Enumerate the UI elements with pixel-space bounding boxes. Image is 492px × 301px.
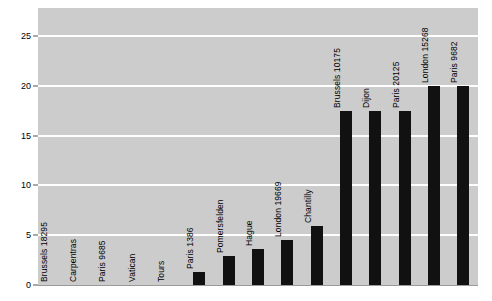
category-label: Carpentras (68, 239, 77, 282)
y-axis: 0510152025 (0, 0, 38, 301)
bar[interactable] (457, 86, 469, 285)
bar[interactable] (369, 111, 381, 285)
bar[interactable] (193, 272, 205, 285)
category-label: Brussels 10175 (332, 48, 341, 108)
y-tick-label-0: 0 (26, 281, 31, 290)
bar[interactable] (428, 86, 440, 285)
y-tick-mark-15 (33, 135, 38, 136)
category-slot[interactable]: Pomersfelden (214, 8, 243, 285)
category-label: Paris 1386 (186, 227, 195, 269)
category-label: Vatican (127, 254, 136, 282)
category-slot[interactable]: Paris 9685 (97, 8, 126, 285)
category-slot[interactable]: Vatican (126, 8, 155, 285)
bar[interactable] (399, 111, 411, 285)
category-label: Paris 20125 (391, 61, 400, 107)
category-label: Chantilly (303, 190, 312, 224)
bar[interactable] (252, 249, 264, 285)
category-slot[interactable]: Carpentras (67, 8, 96, 285)
category-label: Tours (156, 261, 165, 282)
bar[interactable] (223, 256, 235, 285)
y-tick-mark-10 (33, 185, 38, 186)
bar-chart: Brussels 18295CarpentrasParis 9685Vatica… (0, 0, 492, 301)
y-tick-label-5: 5 (26, 231, 31, 240)
category-label: London 15268 (420, 27, 429, 83)
bar[interactable] (281, 240, 293, 285)
category-slot[interactable]: Paris 20125 (390, 8, 419, 285)
category-label: Hague (244, 221, 253, 247)
category-slot[interactable]: Paris 9682 (449, 8, 478, 285)
category-label: London 19669 (274, 182, 283, 238)
category-slot[interactable]: London 19669 (273, 8, 302, 285)
category-slot[interactable]: Brussels 18295 (38, 8, 67, 285)
y-tick-label-25: 25 (21, 31, 31, 40)
category-label: Brussels 18295 (39, 222, 48, 282)
category-label: Paris 9682 (450, 41, 459, 83)
bar[interactable] (311, 226, 323, 285)
category-label: Dijon (362, 88, 371, 108)
x-axis-baseline (38, 285, 478, 286)
y-tick-mark-20 (33, 85, 38, 86)
category-label: Pomersfelden (215, 199, 224, 253)
category-slot[interactable]: London 15268 (419, 8, 448, 285)
category-slot[interactable]: Paris 1386 (185, 8, 214, 285)
y-tick-label-20: 20 (21, 81, 31, 90)
category-slot[interactable]: Brussels 10175 (331, 8, 360, 285)
category-slot[interactable]: Dijon (361, 8, 390, 285)
y-tick-label-10: 10 (21, 181, 31, 190)
bar[interactable] (340, 111, 352, 285)
y-tick-mark-25 (33, 35, 38, 36)
category-slot[interactable]: Tours (155, 8, 184, 285)
category-slot[interactable]: Hague (243, 8, 272, 285)
y-tick-label-15: 15 (21, 131, 31, 140)
category-slot[interactable]: Chantilly (302, 8, 331, 285)
category-label: Paris 9685 (98, 240, 107, 282)
plot-area: Brussels 18295CarpentrasParis 9685Vatica… (38, 8, 478, 285)
y-tick-mark-5 (33, 235, 38, 236)
y-tick-mark-0 (33, 285, 38, 286)
